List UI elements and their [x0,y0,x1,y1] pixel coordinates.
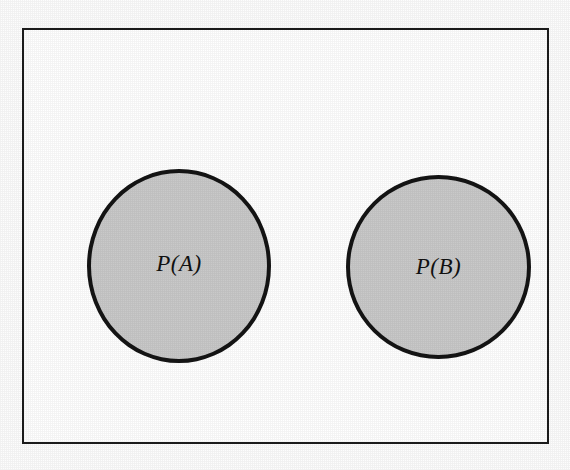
figure-canvas: P(A) P(B) [0,0,570,470]
sample-space-rectangle: P(A) P(B) [22,28,549,444]
event-circle-b: P(B) [346,175,531,359]
event-circle-a: P(A) [87,169,271,363]
event-label-a: P(A) [156,252,201,275]
event-label-b: P(B) [416,255,461,278]
